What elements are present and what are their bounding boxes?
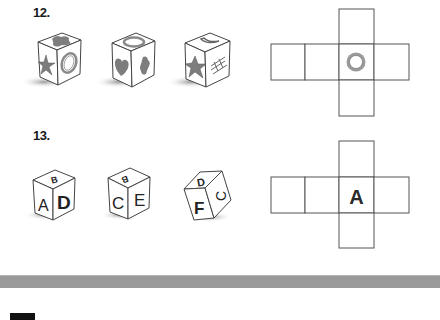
ring-icon [347,53,366,72]
section-divider-bar [0,275,440,288]
section-marker [10,313,35,320]
cube-12-3 [166,33,230,88]
face-letter: A [38,197,49,214]
cube-13-3: D F C [184,171,232,222]
face-letter: E [134,191,145,210]
face-letter: F [194,199,204,218]
net-12 [271,9,409,116]
cube-12-2 [94,33,155,88]
cube-12-1 [20,33,81,88]
face-letter: C [112,194,124,213]
cube-13-2: B C E [100,168,150,220]
face-letter: D [57,192,71,213]
cube-13-1: B A D [24,170,75,220]
face-letter: C [213,191,229,201]
net-face-letter: A [349,186,363,208]
puzzle-figures: B A D B C E D F C A [0,0,440,320]
net-13 [271,141,409,248]
